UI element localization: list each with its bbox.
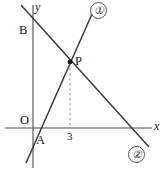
x-axis-label: x bbox=[154, 120, 159, 132]
origin-label: O bbox=[20, 114, 29, 127]
y-axis-label: y bbox=[35, 1, 40, 13]
geometry-figure: y x O B A P 3 ① ② bbox=[0, 0, 165, 173]
point-a-label: A bbox=[36, 134, 45, 147]
line-1-label: ① bbox=[90, 2, 107, 19]
point-p-label: P bbox=[75, 55, 82, 68]
point-p-marker bbox=[68, 60, 73, 65]
x-tick-label-3: 3 bbox=[67, 131, 73, 142]
line-2-label: ② bbox=[128, 146, 145, 163]
point-b-label: B bbox=[19, 24, 27, 37]
line-2-graph bbox=[21, 5, 149, 147]
